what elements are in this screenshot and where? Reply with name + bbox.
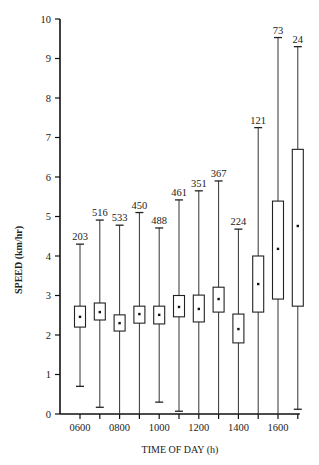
mean-marker bbox=[237, 328, 239, 330]
sample-size-label: 516 bbox=[92, 207, 108, 218]
y-tick-label: 1 bbox=[46, 369, 51, 380]
y-tick-label: 9 bbox=[46, 53, 51, 64]
x-tick-label: 1400 bbox=[228, 422, 249, 433]
mean-marker bbox=[158, 314, 160, 316]
y-tick-label: 2 bbox=[46, 330, 51, 341]
x-axis: 060008001000120014001600 bbox=[60, 414, 300, 433]
box-1600: 73 bbox=[273, 25, 284, 414]
y-axis-title: SPEED (km/hr) bbox=[13, 226, 25, 294]
box-1700: 24 bbox=[292, 34, 304, 410]
y-tick-label: 4 bbox=[46, 251, 52, 262]
x-tick-label: 1600 bbox=[268, 422, 289, 433]
y-tick-label: 0 bbox=[46, 409, 51, 420]
y-tick-label: 10 bbox=[41, 14, 52, 25]
mean-marker bbox=[118, 322, 120, 324]
box-1100: 461 bbox=[171, 187, 187, 411]
sample-size-label: 533 bbox=[112, 212, 128, 223]
sample-size-label: 367 bbox=[211, 168, 227, 179]
x-axis-title: TIME OF DAY (h) bbox=[142, 444, 219, 456]
sample-size-label: 450 bbox=[132, 200, 148, 211]
mean-marker bbox=[217, 298, 219, 300]
y-tick-label: 6 bbox=[46, 172, 51, 183]
x-tick-label: 0600 bbox=[70, 422, 91, 433]
iqr-box bbox=[292, 149, 303, 306]
box-0700: 516 bbox=[92, 207, 108, 407]
sample-size-label: 351 bbox=[191, 178, 207, 189]
sample-size-label: 121 bbox=[250, 115, 266, 126]
sample-size-label: 203 bbox=[72, 231, 88, 242]
box-0800: 533 bbox=[112, 212, 128, 414]
box-0900: 450 bbox=[132, 200, 148, 414]
box-0600: 203 bbox=[72, 231, 88, 386]
box-1000: 488 bbox=[151, 215, 167, 402]
sample-size-label: 24 bbox=[293, 34, 304, 45]
x-tick-label: 0800 bbox=[109, 422, 130, 433]
y-tick-label: 5 bbox=[46, 211, 51, 222]
box-plot-chart: 012345678910 060008001000120014001600 20… bbox=[0, 0, 319, 465]
y-tick-label: 3 bbox=[46, 290, 51, 301]
box-1300: 367 bbox=[211, 168, 227, 414]
mean-marker bbox=[277, 248, 279, 250]
mean-marker bbox=[198, 308, 200, 310]
y-axis: 012345678910 bbox=[41, 14, 61, 420]
x-tick-label: 1000 bbox=[149, 422, 170, 433]
mean-marker bbox=[178, 306, 180, 308]
y-tick-label: 8 bbox=[46, 93, 51, 104]
mean-marker bbox=[257, 283, 259, 285]
box-series: 2035165334504884613513672241217324 bbox=[72, 25, 304, 414]
box-1200: 351 bbox=[191, 178, 207, 414]
box-1500: 121 bbox=[250, 115, 266, 414]
sample-size-label: 461 bbox=[171, 187, 187, 198]
sample-size-label: 488 bbox=[151, 215, 167, 226]
sample-size-label: 224 bbox=[231, 216, 248, 227]
mean-marker bbox=[79, 316, 81, 318]
mean-marker bbox=[138, 313, 140, 315]
mean-marker bbox=[99, 311, 101, 313]
sample-size-label: 73 bbox=[273, 25, 284, 36]
x-tick-label: 1200 bbox=[188, 422, 209, 433]
box-1400: 224 bbox=[231, 216, 248, 414]
mean-marker bbox=[297, 225, 299, 227]
y-tick-label: 7 bbox=[46, 132, 51, 143]
